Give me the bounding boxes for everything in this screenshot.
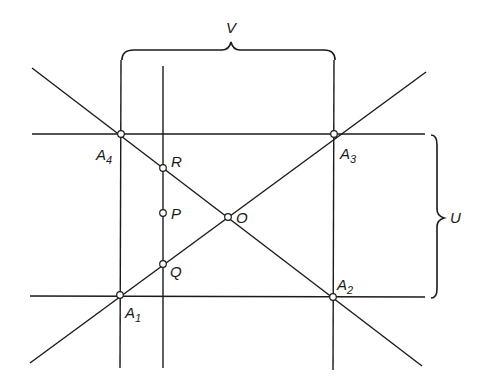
bottom-horizontal-line [30, 296, 425, 297]
right-vertical-line [333, 60, 334, 370]
left-vertical-line [120, 60, 121, 368]
label-a2: A2 [336, 276, 353, 296]
label-a4: A4 [95, 146, 112, 166]
label-q: Q [170, 263, 182, 280]
point-a2 [330, 294, 337, 301]
label-o: O [236, 209, 248, 226]
right-brace [431, 135, 444, 298]
label-a1: A1 [124, 304, 141, 324]
point-o [225, 214, 232, 221]
geometry-diagram: V U A4 A3 A1 A2 O R P Q [0, 0, 504, 387]
point-r [160, 165, 167, 172]
label-u: U [450, 209, 461, 226]
label-a3: A3 [339, 145, 357, 165]
top-brace [122, 42, 335, 60]
label-p: P [171, 205, 181, 222]
label-r: R [171, 153, 182, 170]
label-v: V [226, 19, 238, 36]
point-p [160, 210, 167, 217]
point-a1 [117, 292, 124, 299]
point-a3 [331, 131, 338, 138]
point-q [160, 261, 167, 268]
point-a4 [118, 131, 125, 138]
